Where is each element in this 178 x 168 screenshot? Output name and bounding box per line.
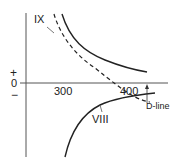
viii-label: VIII — [92, 114, 109, 125]
viii-solid-curve — [65, 93, 155, 157]
dline-arrowhead — [145, 84, 149, 89]
ix-pointer — [47, 27, 54, 33]
upper-solid-curve — [62, 14, 147, 72]
ix-label: IX — [34, 14, 44, 25]
dline-label: D-line — [146, 102, 170, 111]
x-tick-300: 300 — [54, 86, 72, 97]
x-tick-400: 400 — [120, 86, 138, 97]
y-minus-label: − — [11, 89, 18, 101]
viii-pointer — [100, 105, 102, 112]
ord-chart — [0, 0, 178, 168]
